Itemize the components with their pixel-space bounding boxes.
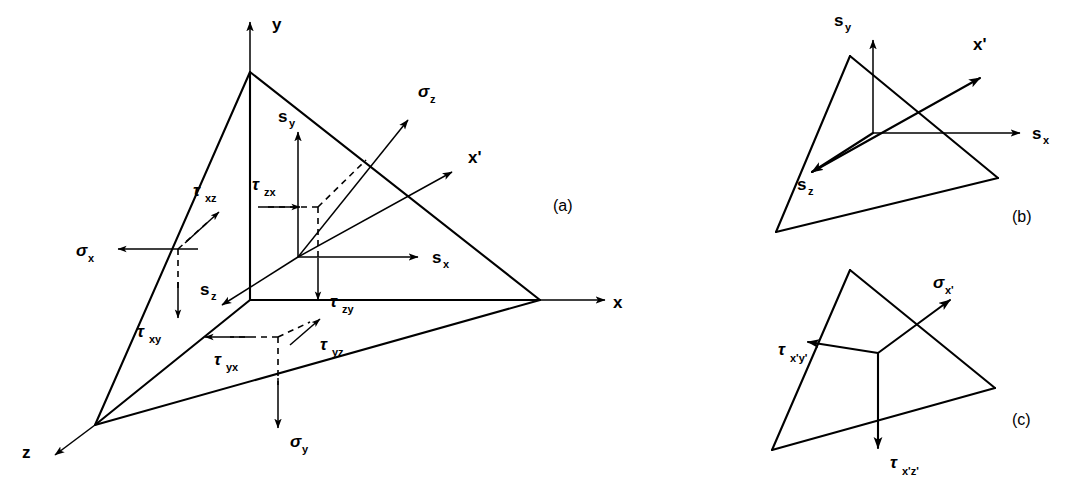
arrow-sigma-z [298, 120, 408, 257]
label-s-y-symbol: s [278, 107, 287, 126]
label-tau-yz-symbol: τ [320, 335, 328, 354]
label-sigma-x-sub: x [88, 252, 95, 264]
panel-b-triangle [776, 56, 998, 232]
panel-b-label-s-x-symbol: s [1032, 124, 1041, 143]
panel-c-label-tau-xz-symbol: τ [890, 453, 898, 472]
panel-c-label-tau-xy-sub: x'y' [790, 352, 808, 364]
arrow-x-prime [298, 172, 452, 257]
label-sigma-z-symbol: σ [418, 82, 430, 101]
panel-b-label-x-prime: x' [973, 35, 987, 54]
label-sigma-z-sub: z [430, 93, 436, 105]
stress-tetrahedron-figure: y x z σ z x' [0, 0, 1073, 488]
stress-cross-x-face [118, 212, 219, 318]
stress-cross-z-face [258, 160, 366, 300]
arrow-s-z [222, 257, 298, 305]
panel-b-arrow-x-prime [812, 78, 980, 172]
label-tau-zx-symbol: τ [252, 175, 260, 194]
label-tau-xy-sub: xy [149, 333, 162, 345]
panel-a: y x z σ z x' [22, 15, 623, 462]
panel-b-label-s-y-sub: y [845, 21, 852, 33]
panel-b-label-s-y-symbol: s [834, 11, 843, 30]
panel-b: s y s x s z x' (b) [776, 11, 1050, 232]
panel-c-label-sigma-symbol: σ [933, 273, 945, 292]
label-tau-zx-sub: zx [264, 186, 277, 198]
label-s-y-sub: y [289, 117, 296, 129]
panel-a-tag: (a) [553, 197, 573, 214]
label-x-prime: x' [468, 148, 482, 167]
stress-cross-y-face [205, 319, 320, 428]
figure-root: y x z σ z x' [0, 0, 1073, 488]
label-tau-zy-sub: zy [342, 303, 355, 315]
label-z-axis: z [22, 443, 31, 462]
panel-b-label-s-z-symbol: s [797, 175, 806, 194]
label-tau-xy-symbol: τ [137, 322, 145, 341]
panel-b-label-s-x-sub: x [1043, 134, 1050, 146]
label-x-axis: x [613, 293, 623, 312]
label-tau-yx-symbol: τ [214, 350, 222, 369]
label-s-x-sub: x [443, 258, 450, 270]
label-sigma-x-symbol: σ [76, 241, 88, 260]
label-sigma-y-symbol: σ [290, 432, 302, 451]
label-tau-xz-symbol: τ [193, 181, 201, 200]
panel-c-tag: (c) [1012, 411, 1031, 428]
label-tau-yz-sub: yz [332, 346, 344, 358]
label-s-z-sub: z [211, 290, 217, 302]
label-sigma-y-sub: y [302, 443, 309, 455]
axis-z [55, 425, 95, 455]
panel-c-arrow-sigma-x-prime [878, 300, 950, 353]
label-y-axis: y [272, 15, 282, 34]
panel-b-tag: (b) [1012, 208, 1032, 225]
label-s-x-symbol: s [432, 248, 441, 267]
panel-b-label-s-z-sub: z [808, 185, 814, 197]
label-tau-yx-sub: yx [226, 361, 239, 373]
panel-c-label-tau-xz-sub: x'z' [902, 465, 919, 477]
panel-c-label-tau-xy-symbol: τ [778, 340, 786, 359]
panel-c-arrow-tau-x-prime-y-prime [808, 342, 878, 353]
panel-c: σ x' τ x'y' τ x'z' (c) [772, 270, 1031, 477]
label-tau-zy-symbol: τ [330, 292, 338, 311]
label-s-z-symbol: s [200, 280, 209, 299]
label-tau-xz-sub: xz [205, 192, 217, 204]
panel-c-label-sigma-sub: x' [945, 284, 954, 296]
